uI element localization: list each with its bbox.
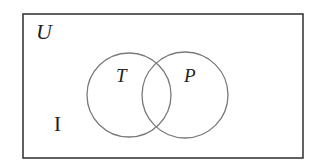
set-t-label: T: [116, 66, 127, 85]
universal-set-box: [23, 14, 303, 158]
set-p-label: P: [184, 66, 196, 85]
region-i-label: I: [54, 114, 61, 135]
universal-set-label: U: [36, 21, 52, 43]
